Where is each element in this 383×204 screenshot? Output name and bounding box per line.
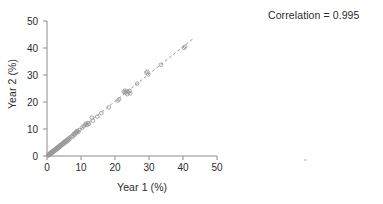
stray-artifact-mark xyxy=(304,159,307,161)
scatter-plot-figure: Correlation = 0.995 Year 1 (%) Year 2 (%… xyxy=(0,0,383,204)
data-point xyxy=(100,111,104,115)
data-point xyxy=(96,115,100,119)
plot-canvas xyxy=(0,0,383,204)
data-points xyxy=(46,45,187,157)
